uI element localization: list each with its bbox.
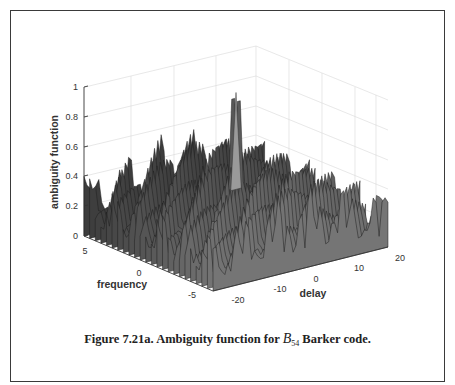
z-tick-0.6: 0.6: [65, 142, 78, 152]
caption-suffix: Barker code.: [299, 332, 371, 346]
frequency-axis-label: frequency: [97, 278, 147, 290]
caption-prefix: Figure 7.21a. Ambiguity function for: [84, 332, 283, 346]
delay-tick-0: 0: [313, 274, 318, 284]
z-tick-labels: 1 0.8 0.6 0.4 0.2 0: [65, 82, 78, 241]
delay-tick-20: 20: [395, 253, 405, 263]
z-tick-0.8: 0.8: [65, 112, 78, 122]
surface-mesh: [84, 93, 388, 292]
frequency-tick-0: 0: [136, 268, 141, 278]
z-tick-0: 0: [73, 231, 78, 241]
caption-symbol: B54: [283, 331, 300, 346]
frequency-tick-neg5: -5: [188, 290, 196, 300]
z-tick-0.4: 0.4: [65, 171, 78, 181]
z-axis-label: ambiguity function: [48, 115, 60, 209]
delay-tick-neg20: -20: [231, 295, 244, 305]
delay-tick-10: 10: [354, 263, 364, 273]
delay-axis-label: delay: [300, 287, 327, 299]
delay-tick-neg10: -10: [273, 284, 286, 294]
z-tick-1: 1: [73, 82, 78, 92]
z-tick-0.2: 0.2: [65, 201, 78, 211]
frequency-tick-5: 5: [82, 246, 87, 256]
ambiguity-surface-plot: 1 0.8 0.6 0.4 0.2 0 5 0 -5 -20 -10 0 10 …: [0, 0, 455, 385]
figure-caption: Figure 7.21a. Ambiguity function for B54…: [0, 331, 455, 348]
